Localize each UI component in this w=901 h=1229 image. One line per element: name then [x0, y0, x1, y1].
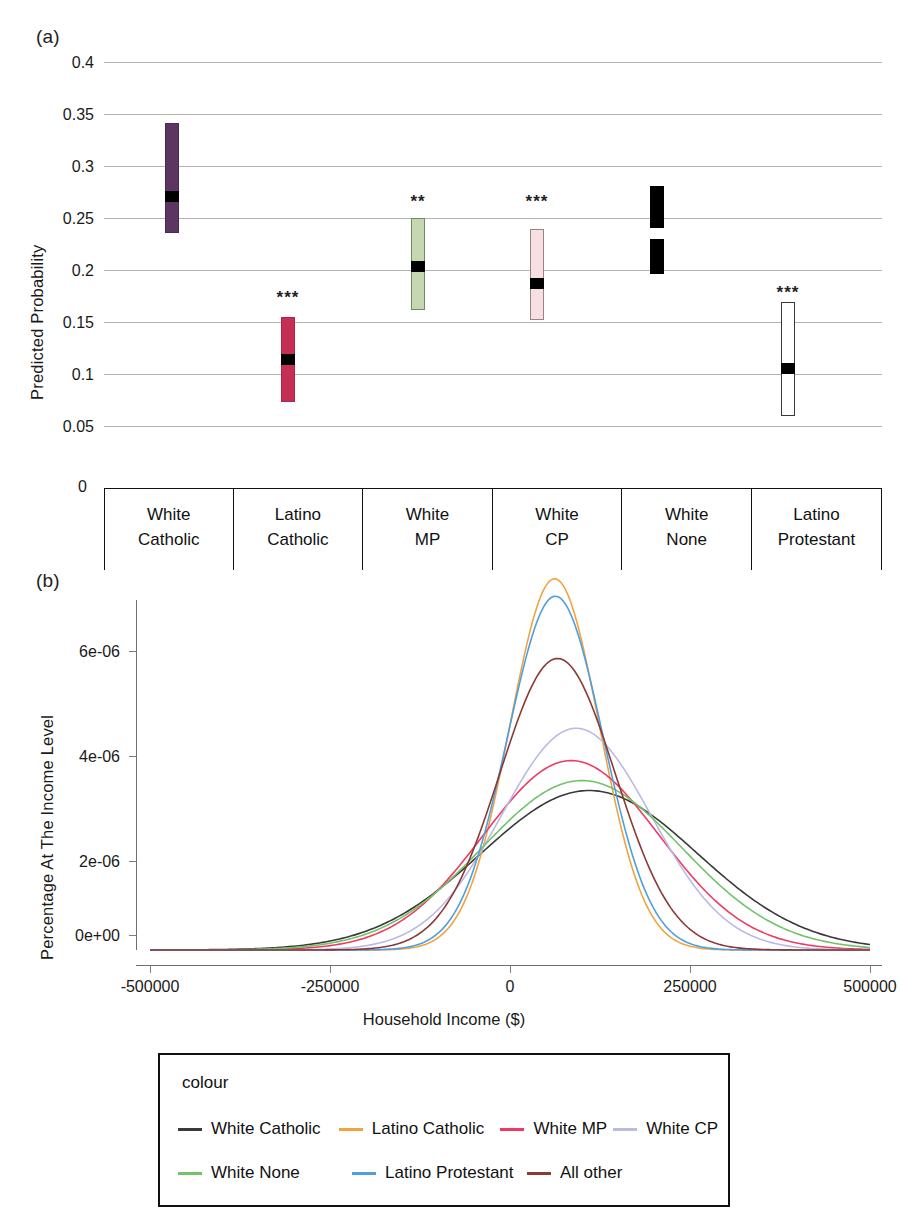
panel-b-chart: (b) Percentage At The Income Level 6e-06…	[0, 570, 888, 1040]
legend-title: colour	[182, 1073, 228, 1093]
panel-a-ytick-1: 0.35	[40, 106, 94, 124]
legend-label: White MP	[533, 1119, 607, 1139]
category-label-line1: Latino	[275, 503, 321, 528]
category-label-line1: White	[665, 503, 708, 528]
density-curves	[0, 570, 888, 1040]
legend-item-white-mp[interactable]: White MP	[500, 1119, 613, 1139]
density-curve-white-none	[150, 781, 870, 950]
panel-a-category-strip: White Catholic Latino Catholic White MP …	[104, 488, 882, 570]
category-label-line2: CP	[545, 528, 569, 553]
panel-a-zero-label: 0	[78, 478, 87, 496]
panel-a-ytick-2: 0.3	[48, 158, 94, 176]
panel-a-ytick-5: 0.15	[40, 314, 94, 332]
legend-label: Latino Protestant	[385, 1163, 514, 1183]
legend-swatch-icon	[178, 1128, 202, 1131]
legend-box: colour White Catholic Latino Catholic Wh…	[158, 1053, 730, 1207]
interval-bar-latino-protestant[interactable]	[781, 302, 795, 416]
legend-label: White None	[211, 1163, 300, 1183]
panel-a-ytick-0: 0.4	[48, 54, 94, 72]
category-label-line1: White	[535, 503, 578, 528]
category-latino-catholic[interactable]: Latino Catholic	[234, 489, 364, 570]
interval-bar-white-none[interactable]	[650, 186, 664, 274]
legend-swatch-icon	[527, 1172, 551, 1175]
density-curve-latino-catholic	[150, 579, 870, 950]
point-estimate-white-catholic	[165, 191, 179, 202]
category-label-line1: White	[406, 503, 449, 528]
legend-item-white-catholic[interactable]: White Catholic	[178, 1119, 339, 1139]
significance-latino-catholic: ***	[277, 288, 300, 308]
legend-label: Latino Catholic	[372, 1119, 484, 1139]
point-estimate-white-cp	[530, 278, 544, 289]
significance-white-cp: ***	[526, 192, 549, 212]
category-white-cp[interactable]: White CP	[493, 489, 623, 570]
legend-label: White CP	[646, 1119, 718, 1139]
significance-latino-protestant: ***	[777, 283, 800, 303]
legend-rows: White Catholic Latino Catholic White MP …	[178, 1107, 718, 1195]
legend-row-2: White None Latino Protestant All other	[178, 1151, 718, 1195]
panel-a-chart: (a) Predicted Probability 0.4 0.35 0.3 0…	[0, 0, 888, 580]
density-curve-white-catholic	[150, 791, 870, 950]
category-label-line2: Protestant	[778, 528, 856, 553]
category-label-line2: Catholic	[267, 528, 328, 553]
legend-swatch-icon	[613, 1128, 637, 1131]
category-white-catholic[interactable]: White Catholic	[104, 489, 234, 570]
panel-a-ytick-6: 0.1	[48, 366, 94, 384]
point-estimate-white-mp	[411, 261, 425, 272]
legend-item-white-cp[interactable]: White CP	[613, 1119, 718, 1139]
legend-swatch-icon	[178, 1172, 202, 1175]
panel-a-ytick-7: 0.05	[40, 418, 94, 436]
category-label-line2: Catholic	[138, 528, 199, 553]
panel-a-ytick-4: 0.2	[48, 262, 94, 280]
legend-swatch-icon	[500, 1128, 524, 1131]
point-estimate-latino-catholic	[281, 354, 295, 365]
panel-a-ytick-3: 0.25	[40, 210, 94, 228]
category-label-line2: MP	[415, 528, 441, 553]
category-label-line2: None	[666, 528, 707, 553]
point-estimate-latino-protestant	[781, 363, 795, 374]
significance-white-mp: **	[410, 192, 425, 212]
legend-label: All other	[560, 1163, 622, 1183]
legend-item-all-other[interactable]: All other	[527, 1163, 622, 1183]
legend-item-latino-protestant[interactable]: Latino Protestant	[352, 1163, 527, 1183]
category-white-none[interactable]: White None	[622, 489, 752, 570]
legend-label: White Catholic	[211, 1119, 321, 1139]
point-estimate-white-none	[650, 228, 664, 239]
density-curve-latino-protestant	[150, 596, 870, 950]
legend-swatch-icon	[352, 1172, 376, 1175]
density-curve-white-mp	[150, 761, 870, 950]
category-label-line1: Latino	[793, 503, 839, 528]
legend-item-latino-catholic[interactable]: Latino Catholic	[339, 1119, 501, 1139]
interval-bar-white-catholic[interactable]	[165, 123, 179, 233]
category-label-line1: White	[147, 503, 190, 528]
legend-row-1: White Catholic Latino Catholic White MP …	[178, 1107, 718, 1151]
legend-item-white-none[interactable]: White None	[178, 1163, 352, 1183]
category-latino-protestant[interactable]: Latino Protestant	[752, 489, 882, 570]
interval-bar-white-cp[interactable]	[530, 229, 544, 320]
panel-a-tag: (a)	[36, 26, 60, 48]
interval-bar-latino-catholic[interactable]	[281, 317, 295, 402]
legend-swatch-icon	[339, 1128, 363, 1131]
category-white-mp[interactable]: White MP	[363, 489, 493, 570]
interval-bar-white-mp[interactable]	[411, 218, 425, 310]
